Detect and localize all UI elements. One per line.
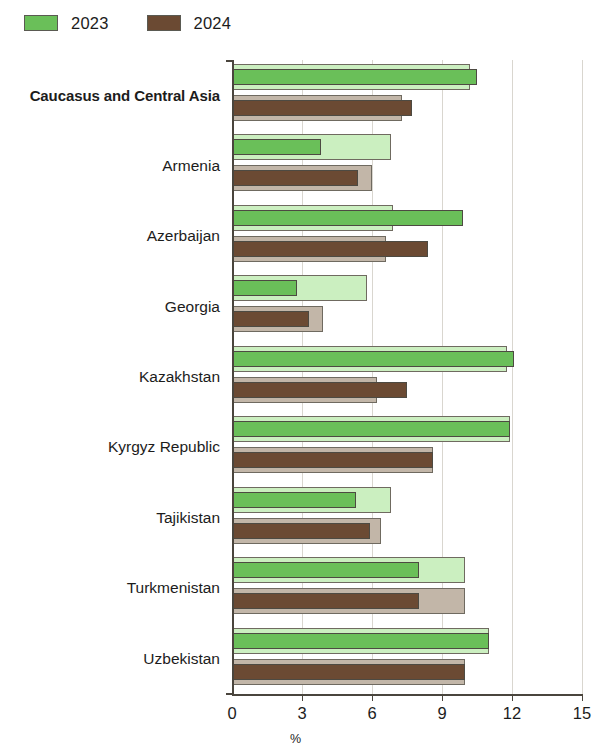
- category-label: Caucasus and Central Asia: [4, 87, 220, 104]
- x-tick-label-9: 9: [422, 704, 462, 723]
- x-tick-6: [372, 694, 373, 701]
- x-tick-label-15: 15: [562, 704, 596, 723]
- x-tick-label-6: 6: [352, 704, 392, 723]
- x-axis-title: %: [0, 732, 591, 746]
- category-label: Turkmenistan: [4, 579, 220, 597]
- category-label: Azerbaijan: [4, 227, 220, 245]
- category-label: Kazakhstan: [4, 368, 220, 386]
- x-tick-12: [512, 694, 513, 701]
- category-label: Georgia: [4, 298, 220, 316]
- x-tick-3: [302, 694, 303, 701]
- x-tick-15: [582, 694, 583, 701]
- category-label: Uzbekistan: [4, 650, 220, 668]
- category-label: Tajikistan: [4, 509, 220, 527]
- category-label: Kyrgyz Republic: [4, 438, 220, 456]
- x-tick-label-3: 3: [282, 704, 322, 723]
- x-tick-9: [442, 694, 443, 701]
- x-tick-label-0: 0: [212, 704, 252, 723]
- x-axis-line: [232, 694, 582, 696]
- category-label: Armenia: [4, 157, 220, 175]
- x-tick-label-12: 12: [492, 704, 532, 723]
